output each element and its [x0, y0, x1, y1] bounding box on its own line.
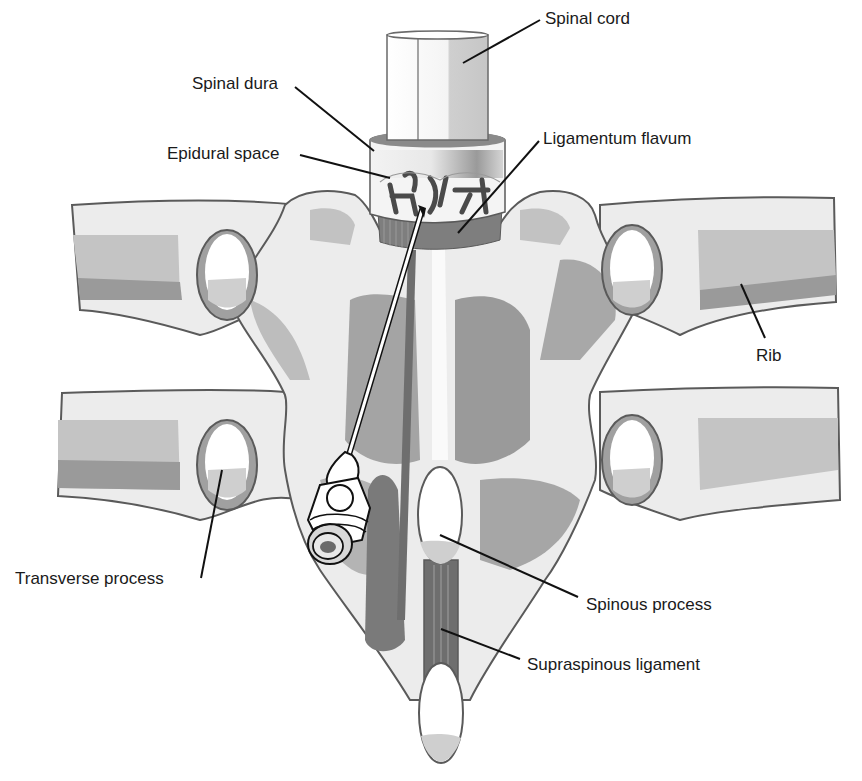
spinal-cord [387, 31, 488, 140]
label-supraspinous-ligament: Supraspinous ligament [527, 656, 700, 673]
label-transverse-process: Transverse process [15, 570, 164, 587]
anatomy-illustration [0, 0, 862, 781]
label-rib: Rib [756, 347, 782, 364]
label-spinal-cord: Spinal cord [545, 10, 630, 27]
leader-line-spinal-dura [295, 87, 374, 151]
lower-left-rib [58, 390, 300, 520]
label-spinal-dura: Spinal dura [192, 75, 278, 92]
epidural-anatomy-diagram: Spinal cord Spinal dura Ligamentum flavu… [0, 0, 862, 781]
label-ligamentum-flavum: Ligamentum flavum [543, 130, 691, 147]
spinous-process-lower [419, 663, 463, 763]
spinous-process-upper [418, 467, 462, 564]
label-epidural-space: Epidural space [167, 145, 279, 162]
label-spinous-process: Spinous process [586, 596, 712, 613]
